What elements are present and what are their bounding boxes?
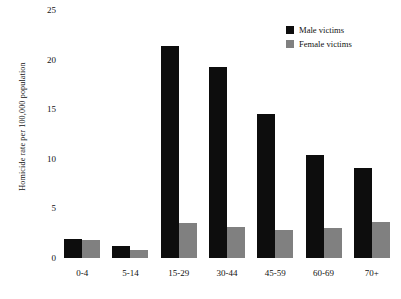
bar-female-victims-5-14 — [130, 250, 148, 258]
bar-female-victims-0-4 — [82, 240, 100, 258]
x-axis-tick-label: 15-29 — [155, 268, 203, 278]
bar-group-30-44 — [203, 10, 251, 258]
bar-male-victims-5-14 — [112, 246, 130, 258]
legend-swatch-icon — [286, 26, 294, 34]
bar-group-15-29 — [155, 10, 203, 258]
legend-label: Male victims — [299, 25, 344, 35]
y-axis-tick-label: 25 — [4, 5, 56, 15]
x-axis-tick-label: 70+ — [348, 268, 396, 278]
y-axis-tick-labels: 0510152025 — [0, 0, 56, 299]
bar-group-5-14 — [106, 10, 154, 258]
legend-swatch-icon — [286, 40, 294, 48]
bar-male-victims-0-4 — [64, 239, 82, 258]
legend-item-male-victims: Male victims — [286, 25, 352, 35]
bar-group-70plus — [348, 10, 396, 258]
bar-male-victims-60-69 — [306, 155, 324, 258]
x-axis-tick-label: 45-59 — [251, 268, 299, 278]
bar-female-victims-45-59 — [275, 230, 293, 258]
bar-female-victims-70plus — [372, 222, 390, 258]
bar-male-victims-70plus — [354, 168, 372, 258]
y-axis-tick-label: 10 — [4, 154, 56, 164]
legend-item-female-victims: Female victims — [286, 39, 352, 49]
x-axis-tick-label: 60-69 — [299, 268, 347, 278]
y-axis-tick-label: 15 — [4, 104, 56, 114]
bar-male-victims-30-44 — [209, 67, 227, 258]
y-axis-tick-label: 20 — [4, 55, 56, 65]
y-axis-tick-label: 5 — [4, 203, 56, 213]
bar-chart: Homicide rate per 100,000 population 051… — [0, 0, 401, 299]
bar-male-victims-45-59 — [257, 114, 275, 258]
x-axis-tick-label: 5-14 — [106, 268, 154, 278]
x-axis-tick-label: 0-4 — [58, 268, 106, 278]
y-axis-tick-label: 0 — [4, 253, 56, 263]
bar-group-0-4 — [58, 10, 106, 258]
legend-label: Female victims — [299, 39, 352, 49]
chart-legend: Male victimsFemale victims — [286, 25, 352, 49]
bar-male-victims-15-29 — [161, 46, 179, 258]
x-axis-tick-label: 30-44 — [203, 268, 251, 278]
bar-female-victims-60-69 — [324, 228, 342, 258]
bar-female-victims-15-29 — [179, 223, 197, 258]
x-axis-tick-labels: 0-45-1415-2930-4445-5960-6970+ — [58, 268, 396, 278]
bar-female-victims-30-44 — [227, 227, 245, 258]
